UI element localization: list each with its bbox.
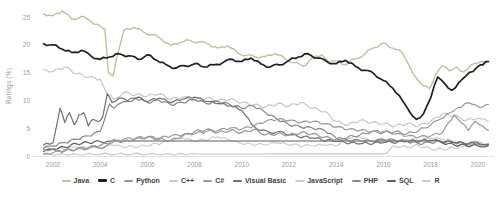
legend-swatch-c	[203, 180, 212, 182]
legend-swatch-sql	[387, 180, 396, 182]
legend-item-javascript[interactable]: JavaScript	[295, 176, 342, 185]
x-tick-label: 2012	[273, 161, 305, 169]
legend-item-java[interactable]: Java	[62, 176, 90, 185]
legend-label: R	[434, 176, 439, 185]
y-tick-label: 10	[8, 97, 30, 104]
y-tick-label: 25	[8, 14, 30, 21]
legend-label: SQL	[399, 176, 413, 185]
y-tick-label: 15	[8, 69, 30, 76]
x-tick-label: 2018	[415, 161, 447, 169]
legend-label: Java	[74, 176, 90, 185]
y-tick-label: 0	[8, 153, 30, 160]
legend-label: C#	[215, 176, 224, 185]
y-tick-label: 20	[8, 41, 30, 48]
x-tick-label: 2008	[179, 161, 211, 169]
series-line-c	[44, 44, 489, 120]
x-tick-label: 2010	[226, 161, 258, 169]
legend-swatch-c	[98, 179, 107, 182]
legend-swatch-php	[352, 180, 361, 182]
x-tick-label: 2020	[462, 161, 494, 169]
x-tick-label: 2002	[37, 161, 69, 169]
legend-label: C++	[181, 176, 194, 185]
legend-item-php[interactable]: PHP	[352, 176, 378, 185]
legend-swatch-r	[422, 180, 431, 182]
series-line-visual-basic	[44, 94, 489, 145]
legend-item-python[interactable]: Python	[124, 176, 160, 185]
legend-swatch-java	[62, 180, 71, 182]
tiobe-index-chart: Ratings (%) 0510152025 20022004200620082…	[0, 0, 501, 197]
legend-item-sql[interactable]: SQL	[387, 176, 413, 185]
x-tick-label: 2006	[131, 161, 163, 169]
legend-label: JavaScript	[307, 176, 342, 185]
legend-swatch-javascript	[295, 180, 304, 182]
series-line-c	[44, 67, 489, 127]
y-tick-label: 5	[8, 125, 30, 132]
legend-label: PHP	[364, 176, 378, 185]
legend-label: Visual Basic	[245, 176, 286, 185]
chart-legend: JavaCPythonC++C#Visual BasicJavaScriptPH…	[0, 176, 501, 185]
legend-label: C	[110, 176, 115, 185]
series-line-java	[44, 11, 489, 89]
legend-label: Python	[136, 176, 160, 185]
legend-swatch-python	[124, 180, 133, 182]
legend-item-c[interactable]: C#	[203, 176, 224, 185]
legend-item-c[interactable]: C	[98, 176, 115, 185]
legend-item-c[interactable]: C++	[169, 176, 194, 185]
x-tick-label: 2004	[84, 161, 116, 169]
legend-item-r[interactable]: R	[422, 176, 439, 185]
legend-swatch-visual-basic	[233, 180, 242, 182]
x-tick-label: 2014	[320, 161, 352, 169]
legend-item-visual-basic[interactable]: Visual Basic	[233, 176, 286, 185]
legend-swatch-c	[169, 180, 178, 182]
x-tick-label: 2016	[367, 161, 399, 169]
